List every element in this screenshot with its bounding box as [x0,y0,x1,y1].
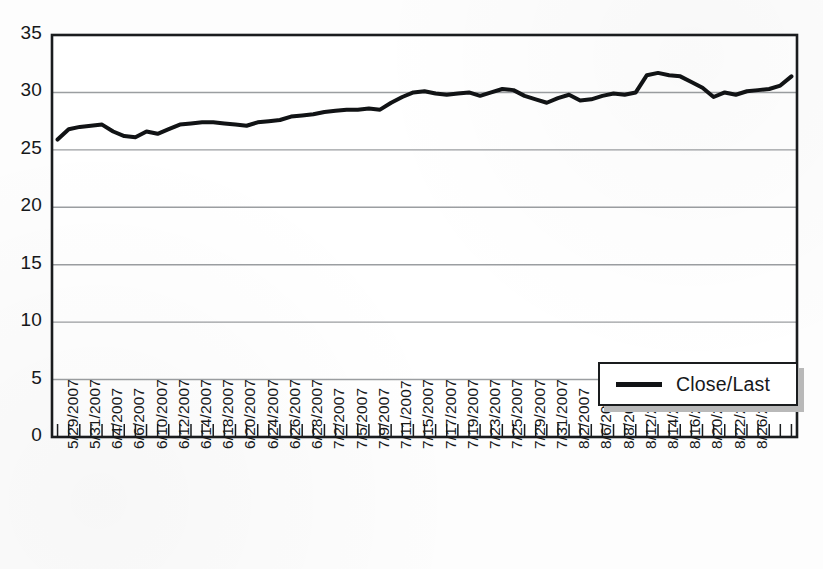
x-axis-tick-label: 6/26/2007 [286,379,304,449]
x-axis-tick-label: 6/4/2007 [108,388,126,449]
x-axis-tick-label: 7/31/2007 [553,379,571,449]
x-axis-tick-label: 7/9/2007 [375,388,393,449]
y-axis-tick-label: 5 [2,367,42,389]
x-axis-tick-label: 5/31/2007 [86,379,104,449]
y-axis-tick-label: 0 [2,424,42,446]
y-axis-tick-label: 35 [2,22,42,44]
x-axis-tick-label: 7/29/2007 [531,379,549,449]
legend-box[interactable]: Close/Last [598,362,798,406]
x-axis-tick-label: 7/25/2007 [508,379,526,449]
x-axis-tick-label: 7/17/2007 [442,379,460,449]
x-axis-tick-label: 7/2/2007 [330,388,348,449]
y-axis-tick-label: 20 [2,194,42,216]
y-axis-tick-label: 25 [2,137,42,159]
x-axis-tick-label: 7/19/2007 [464,379,482,449]
legend-label: Close/Last [676,373,770,396]
x-axis-tick-label: 6/24/2007 [264,379,282,449]
x-axis-tick-label: 7/11/2007 [397,380,415,449]
x-axis-tick-label: 6/10/2007 [153,379,171,449]
x-axis-tick-label: 6/6/2007 [130,388,148,449]
x-axis-tick-label: 6/28/2007 [308,379,326,449]
x-axis-tick-label: 6/14/2007 [197,379,215,449]
y-axis-tick-label: 10 [2,309,42,331]
x-axis-tick-label: 6/12/2007 [175,379,193,449]
legend-line-swatch-icon [616,382,662,387]
x-axis-tick-label: 7/23/2007 [486,379,504,449]
x-axis-tick-label: 7/5/2007 [353,388,371,449]
y-axis-tick-label: 15 [2,252,42,274]
chart-container: 35302520151050 5/29/20075/31/20076/4/200… [0,0,823,569]
y-axis-tick-label: 30 [2,79,42,101]
x-axis-tick-label: 5/29/2007 [64,379,82,449]
x-axis-tick-label: 6/20/2007 [241,379,259,449]
line-chart-plot [0,0,823,569]
x-axis-tick-label: 7/15/2007 [419,379,437,449]
x-axis-tick-label: 6/18/2007 [219,379,237,449]
x-axis-tick-label: 8/2/2007 [575,388,593,449]
